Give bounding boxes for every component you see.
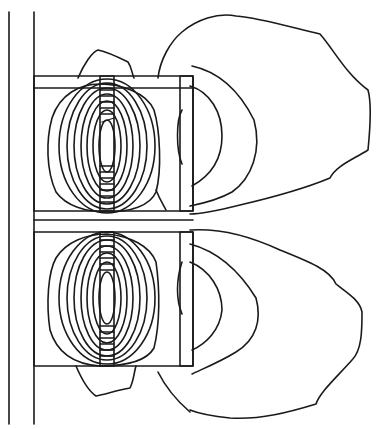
lower-outer-coil <box>180 232 193 366</box>
lower-inner-coil <box>100 232 114 366</box>
lower-inner-contours <box>48 232 159 396</box>
field-plot-diagram <box>0 0 379 429</box>
field-plot-svg <box>0 0 379 429</box>
upper-outer-coil <box>180 76 193 211</box>
upper-outer-contours <box>156 15 370 214</box>
upper-inner-contours <box>48 50 160 213</box>
lower-outer-contours <box>158 230 362 419</box>
